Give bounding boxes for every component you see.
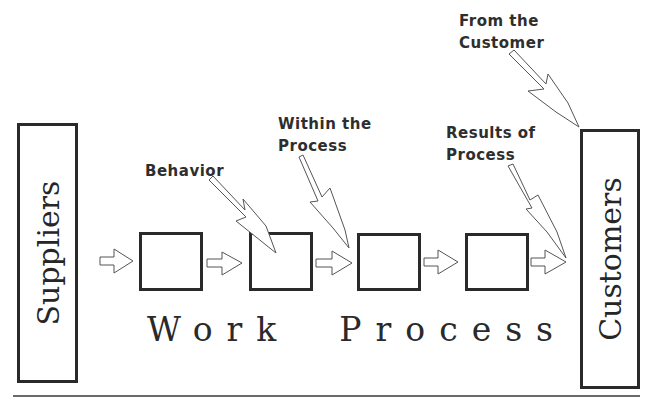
behavior-arrow-icon bbox=[209, 176, 276, 253]
flow-arrow-icon bbox=[207, 252, 242, 275]
results-process-arrow-icon bbox=[508, 164, 566, 258]
flow-arrow-icon bbox=[100, 249, 133, 273]
flow-arrow-icon bbox=[316, 251, 352, 275]
work-process-diagram: Suppliers Customers Behavior Within the … bbox=[0, 0, 654, 399]
callout-within-process: Within the Process bbox=[278, 113, 372, 157]
callout-results-of-process: Results of Process bbox=[446, 122, 536, 166]
callout-from-customer: From the Customer bbox=[459, 10, 544, 54]
work-process-title: Work Process bbox=[147, 310, 567, 349]
flow-arrow-icon bbox=[424, 250, 458, 274]
callout-behavior: Behavior bbox=[145, 160, 224, 182]
from-customer-arrow-icon bbox=[509, 50, 579, 127]
within-process-arrow-icon bbox=[299, 155, 349, 248]
bottom-divider bbox=[13, 395, 640, 397]
flow-arrow-icon bbox=[531, 250, 566, 274]
